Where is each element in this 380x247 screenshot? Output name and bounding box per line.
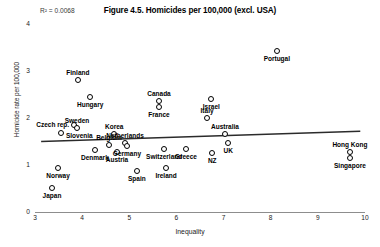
y-tick-label: 1 (8, 161, 30, 168)
data-point[interactable] (74, 125, 80, 131)
data-point-label: Singapore (334, 162, 366, 169)
x-tick-label: 10 (355, 214, 375, 221)
data-point-label: UK (224, 147, 233, 154)
scatter-chart: R² = 0.0068 Figure 4.5. Homicides per 10… (0, 0, 380, 247)
data-point-label: Hungary (77, 101, 103, 108)
data-point[interactable] (106, 142, 112, 148)
data-point-label: Australia (211, 123, 239, 130)
data-point[interactable] (183, 146, 189, 152)
x-axis-title: Inequality (0, 228, 380, 235)
data-point-label: Denmark (81, 154, 109, 161)
data-point[interactable] (55, 165, 61, 171)
data-point-label: Japan (43, 192, 62, 199)
data-point[interactable] (204, 115, 210, 121)
y-tick-label: 4 (8, 20, 30, 27)
y-tick-label: 3 (8, 67, 30, 74)
data-point-label: Portugal (264, 55, 290, 62)
data-point-label: Spain (128, 175, 146, 182)
data-point-label: Ireland (155, 172, 176, 179)
data-point-label: Greece (175, 153, 197, 160)
data-point-label: Netherlands (106, 132, 144, 139)
data-point-label: France (148, 111, 169, 118)
x-tick-label: 7 (214, 214, 234, 221)
data-point[interactable] (161, 146, 167, 152)
data-point-label: Hong Kong (332, 141, 367, 148)
y-tick-label: 2 (8, 114, 30, 121)
x-tick-label: 4 (72, 214, 92, 221)
x-tick-label: 8 (261, 214, 281, 221)
x-tick-label: 6 (166, 214, 186, 221)
data-point[interactable] (124, 143, 130, 149)
data-point-label: Israel (203, 103, 220, 110)
data-point[interactable] (156, 104, 162, 110)
data-point-label: NZ (208, 157, 217, 164)
data-point[interactable] (225, 140, 231, 146)
x-tick-label: 9 (308, 214, 328, 221)
data-point-label: Germany (113, 150, 141, 157)
x-tick-label: 3 (25, 214, 45, 221)
data-point[interactable] (222, 131, 228, 137)
data-point[interactable] (163, 165, 169, 171)
chart-title: Figure 4.5. Homicides per 100,000 (excl.… (0, 6, 380, 15)
data-point-label: Korea (105, 123, 123, 130)
data-point[interactable] (92, 147, 98, 153)
data-point[interactable] (156, 98, 162, 104)
data-point[interactable] (134, 168, 140, 174)
data-point[interactable] (58, 130, 64, 136)
data-point-label: Norway (46, 172, 69, 179)
data-point[interactable] (347, 149, 353, 155)
data-point-label: Slovenia (66, 132, 93, 139)
data-point[interactable] (208, 96, 214, 102)
data-point[interactable] (49, 185, 55, 191)
data-point[interactable] (87, 94, 93, 100)
data-point-label: Finland (66, 69, 89, 76)
data-point-label: Sweden (65, 117, 90, 124)
data-point[interactable] (347, 155, 353, 161)
x-axis-line (35, 212, 365, 213)
data-point[interactable] (209, 150, 215, 156)
data-point[interactable] (274, 48, 280, 54)
data-point[interactable] (75, 77, 81, 83)
x-tick-label: 5 (119, 214, 139, 221)
y-axis-title: Homicide rate per 100,000 (13, 40, 20, 160)
data-point-label: Canada (147, 90, 170, 97)
